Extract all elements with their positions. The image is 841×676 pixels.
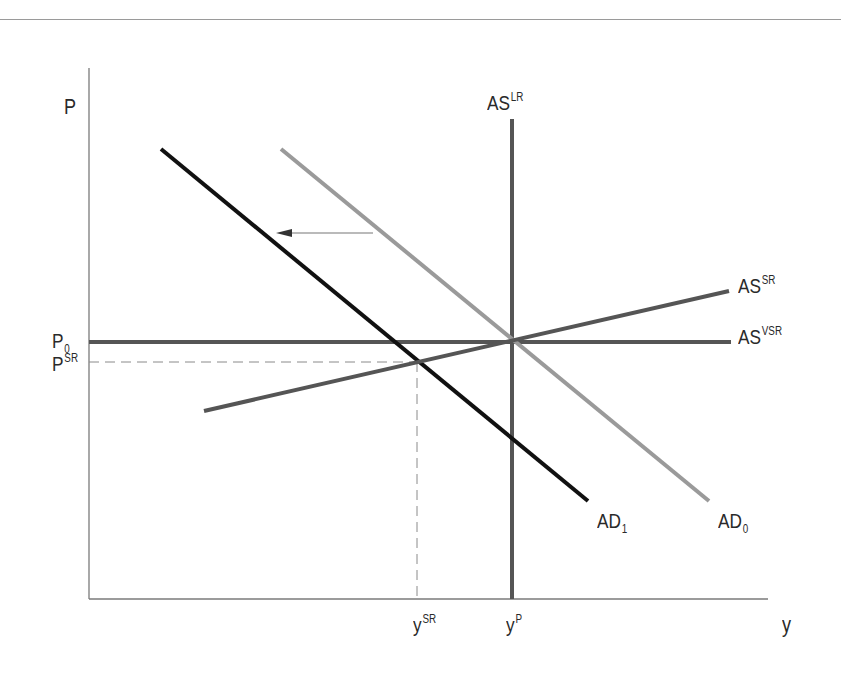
as-sr-label: ASSR bbox=[738, 275, 775, 296]
arrow-left-icon bbox=[276, 229, 292, 237]
as-lr-label: ASLR bbox=[487, 92, 523, 113]
as-vsr-label: ASVSR bbox=[738, 326, 782, 347]
y-axis-label: P bbox=[64, 96, 76, 118]
ad-as-diagram bbox=[0, 0, 841, 676]
ad0-label: AD0 bbox=[718, 510, 748, 531]
x-axis-label: y bbox=[782, 614, 791, 636]
yp-label: yP bbox=[506, 614, 522, 635]
p0-label: P0 bbox=[52, 330, 70, 351]
psr-label: PSR bbox=[52, 353, 78, 374]
ad1-label: AD1 bbox=[597, 510, 627, 531]
ysr-label: ySR bbox=[413, 614, 436, 635]
ad1-curve bbox=[161, 149, 588, 501]
as-sr-curve bbox=[204, 291, 729, 411]
ad0-curve bbox=[281, 149, 709, 501]
